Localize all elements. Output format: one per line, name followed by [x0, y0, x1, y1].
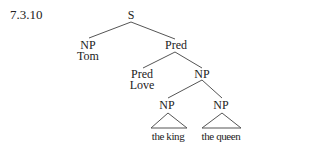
- node-pred: Pred: [165, 40, 187, 51]
- edge-np-np-right: [202, 80, 222, 98]
- edge-np-np-left: [168, 80, 202, 98]
- leaf-the-queen: the queen: [202, 131, 241, 142]
- node-s: S: [128, 10, 135, 21]
- node-np-object: NP: [194, 69, 209, 80]
- triangle-the-queen: [202, 113, 241, 128]
- leaf-the-king: the king: [152, 131, 185, 142]
- edge-s-pred: [131, 22, 175, 39]
- edge-pred-np: [175, 52, 202, 68]
- edge-pred-pred: [143, 52, 175, 68]
- node-np-the-king: NP: [159, 100, 174, 111]
- triangle-the-king: [151, 113, 187, 128]
- leaf-love: Love: [130, 80, 155, 91]
- edge-s-np: [89, 22, 131, 38]
- node-np-the-queen: NP: [213, 100, 228, 111]
- leaf-tom: Tom: [77, 51, 99, 62]
